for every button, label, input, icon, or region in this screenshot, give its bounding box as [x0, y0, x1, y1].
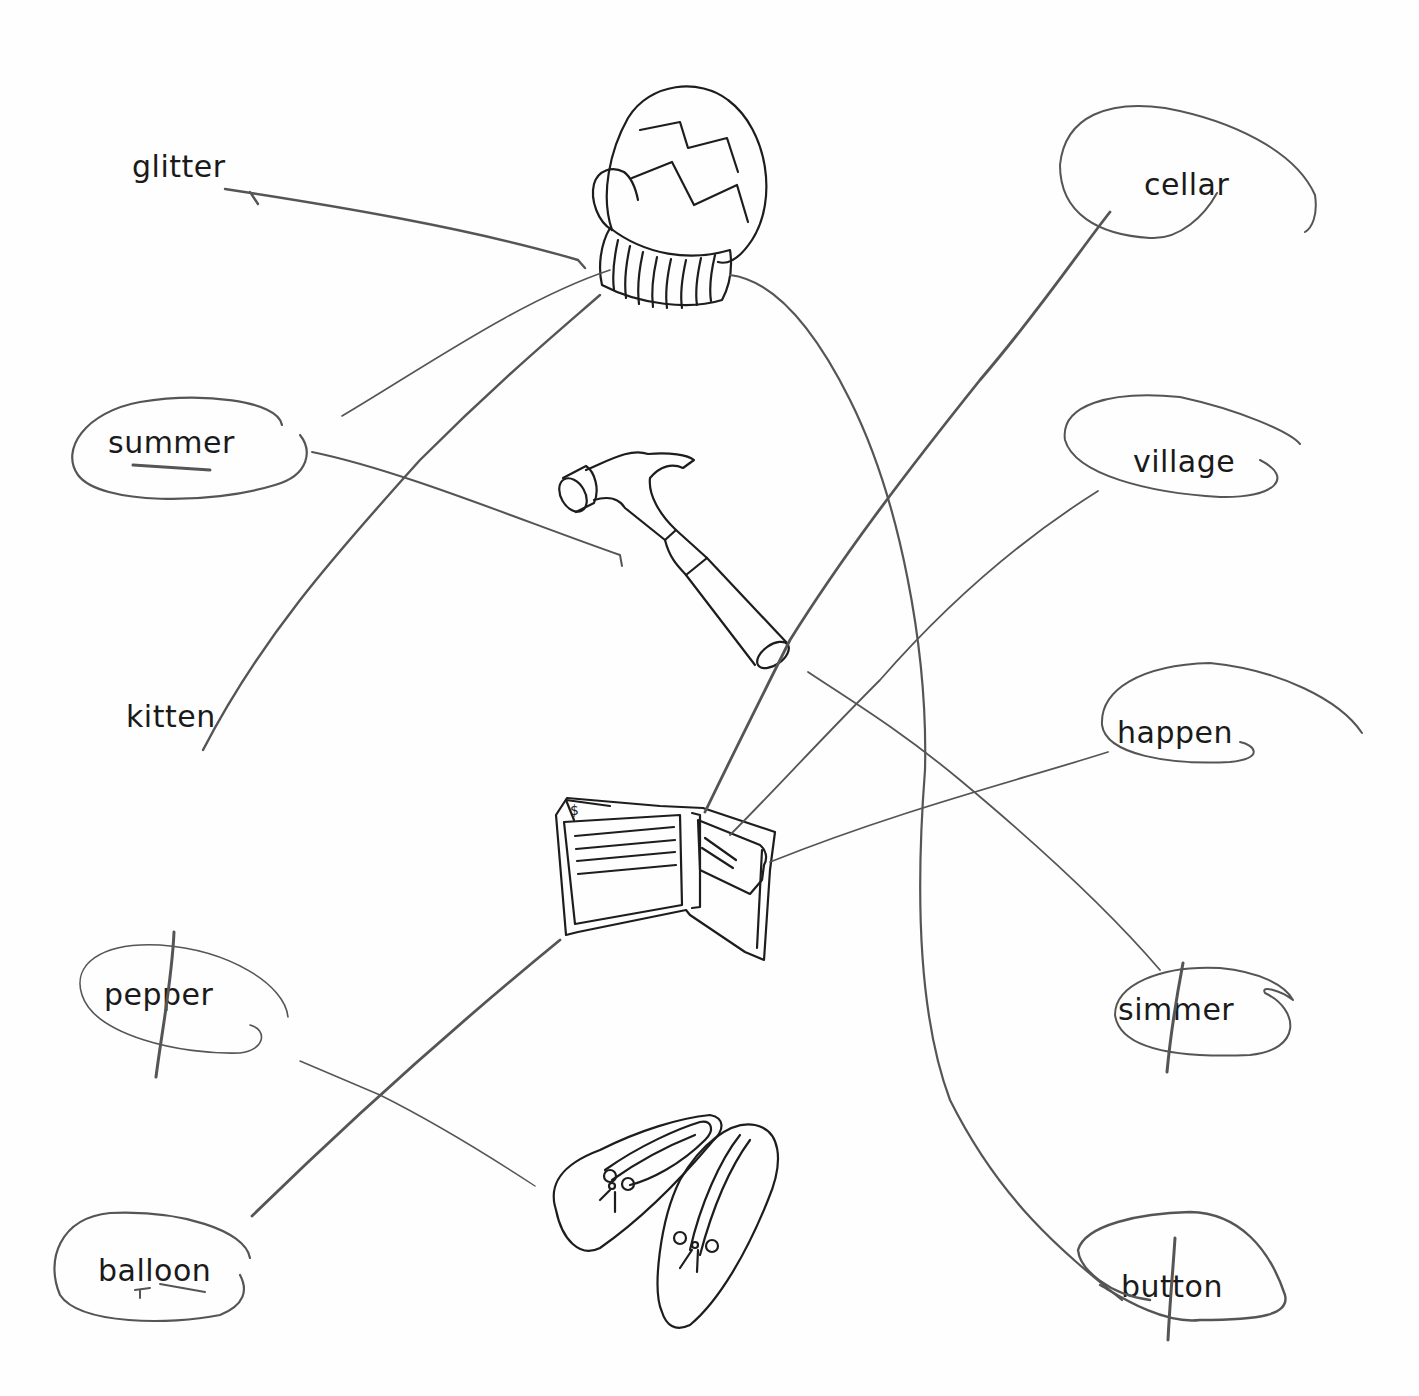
worksheet-page: $	[0, 0, 1419, 1396]
strike-pepper	[156, 932, 174, 1077]
strike-button	[1168, 1238, 1175, 1340]
line-button-mitten	[730, 275, 1122, 1300]
line-village-wallet	[730, 491, 1098, 835]
circle-happen	[1102, 663, 1362, 763]
circle-summer	[72, 398, 306, 499]
underline-balloon	[135, 1284, 205, 1298]
circle-cellar	[1060, 106, 1316, 238]
underline-summer	[133, 465, 210, 470]
line-cellar-wallet	[705, 212, 1110, 812]
line-pepper-slippers	[300, 1061, 535, 1186]
line-simmer-wallet	[808, 672, 1160, 970]
circle-simmer	[1115, 968, 1293, 1056]
circle-village	[1065, 395, 1300, 497]
strike-simmer	[1167, 963, 1183, 1072]
pencil-marks-layer	[0, 0, 1419, 1396]
line-summer-mitten	[342, 270, 610, 416]
circle-balloon	[54, 1213, 250, 1321]
circle-pepper	[80, 945, 288, 1053]
circle-button	[1078, 1212, 1286, 1320]
line-summer-hammer	[312, 452, 622, 566]
line-happen-wallet	[770, 752, 1108, 862]
line-kitten-mitten	[203, 295, 600, 750]
line-glitter-mitten	[225, 189, 585, 268]
line-balloon-wallet	[252, 940, 560, 1216]
